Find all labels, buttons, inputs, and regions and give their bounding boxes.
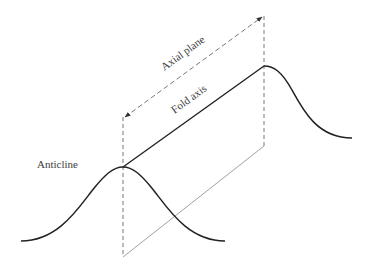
axial-plane-bottom-edge xyxy=(123,146,264,257)
fold-axis-line xyxy=(123,66,264,167)
anticline-diagram: Anticline Axial plane Fold axis xyxy=(0,0,371,277)
anticline-curve-back xyxy=(264,66,352,138)
axial-plane-label: Axial plane xyxy=(158,33,206,73)
anticline-label: Anticline xyxy=(37,158,78,170)
